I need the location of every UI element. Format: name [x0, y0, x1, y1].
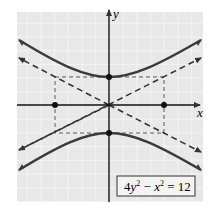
vertex-upper [106, 74, 112, 80]
point-left [52, 102, 58, 108]
equation-label: 4y2 − x2 = 12 [124, 179, 191, 194]
hyperbola-graph: x y 4y2 − x2 = 12 [0, 0, 218, 208]
x-axis-label: x [196, 105, 203, 120]
y-axis-label: y [111, 6, 119, 21]
vertex-lower [106, 130, 112, 136]
point-right [161, 102, 167, 108]
grid-background [17, 12, 203, 202]
